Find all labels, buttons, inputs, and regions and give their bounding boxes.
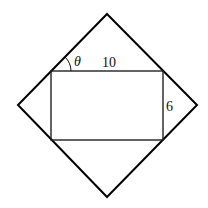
angle-theta-label: θ bbox=[74, 54, 81, 69]
inscribed-rectangle bbox=[51, 71, 163, 140]
right-side-length-label: 6 bbox=[166, 99, 173, 114]
angle-arc bbox=[65, 57, 71, 71]
top-side-length-label: 10 bbox=[102, 55, 116, 70]
diagram-canvas: θ 10 6 bbox=[0, 0, 208, 208]
